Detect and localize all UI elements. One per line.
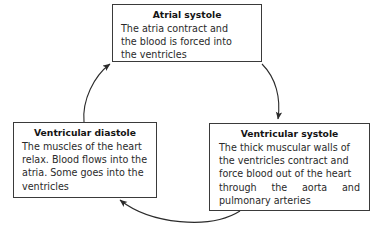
node-ventricular-diastole: Ventricular diastole The muscles of the … [13, 122, 157, 198]
node-atrial-systole-body: The atria contract and the blood is forc… [121, 21, 253, 62]
node-ventricular-systole-body: The thick muscular walls of the ventricl… [219, 140, 360, 207]
text-line: force blood out of the heart [219, 168, 351, 179]
text-line: pulmonary arteries [219, 195, 311, 206]
text-line: The thick muscular walls of [219, 142, 350, 153]
text-line: relax. Blood flows into the [22, 154, 147, 165]
node-ventricular-diastole-heading: Ventricular diastole [22, 124, 148, 139]
arrow-atrial-to-systole [262, 64, 279, 119]
text-line: the blood is forced into [121, 36, 232, 47]
text-line: atria. Some goes into the [22, 167, 144, 178]
node-ventricular-systole: Ventricular systole The thick muscular w… [209, 123, 370, 211]
cardiac-cycle-diagram: Atrial systole The atria contract and th… [0, 0, 373, 235]
text-line: the ventricles [121, 49, 187, 60]
text-line: ventricles [22, 181, 69, 192]
text-line: the ventricles contract and [219, 155, 349, 166]
node-ventricular-diastole-body: The muscles of the heart relax. Blood fl… [22, 139, 148, 193]
node-atrial-systole: Atrial systole The atria contract and th… [112, 4, 262, 62]
text-line-justified: through the aorta and [219, 181, 360, 194]
arrow-diastole-to-atrial [84, 64, 110, 122]
text-line: The atria contract and [121, 23, 228, 34]
node-ventricular-systole-heading: Ventricular systole [219, 125, 360, 140]
node-atrial-systole-heading: Atrial systole [121, 6, 253, 21]
text-line: The muscles of the heart [22, 141, 142, 152]
